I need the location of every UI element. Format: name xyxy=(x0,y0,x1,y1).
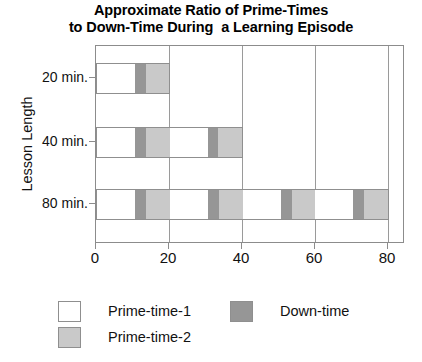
plot-inner xyxy=(96,46,403,242)
bar-segment-prime2 xyxy=(146,128,170,157)
legend-swatch-prime-time-1-icon xyxy=(58,301,81,322)
legend-swatch-down-time-icon xyxy=(230,301,253,322)
page-title: Approximate Ratio of Prime-Times to Down… xyxy=(0,2,422,36)
bar-segment-down xyxy=(135,190,146,219)
bar-segment-prime1 xyxy=(243,190,281,219)
legend-item-down-time: Down-time xyxy=(230,301,349,322)
y-tick-40 xyxy=(89,141,95,142)
bar-segment-down xyxy=(353,190,364,219)
bar-segment-prime1 xyxy=(97,190,135,219)
legend-label-prime-time-1: Prime-time-1 xyxy=(108,303,191,319)
x-tick-label-80: 80 xyxy=(367,249,407,266)
x-tick-label-40: 40 xyxy=(221,249,261,266)
x-tick-label-0: 0 xyxy=(75,249,115,266)
y-tick-20 xyxy=(89,77,95,78)
bar-segment-prime2 xyxy=(146,64,169,93)
legend-item-prime-time-2: Prime-time-2 xyxy=(58,327,230,348)
bar-segment-down xyxy=(135,64,146,93)
chart-title-line-1: Approximate Ratio of Prime-Times xyxy=(0,2,422,19)
y-tick-label-40: 40 min. xyxy=(0,133,88,149)
x-tick-label-60: 60 xyxy=(294,249,334,266)
bar-80-min xyxy=(96,189,389,220)
bar-segment-prime2 xyxy=(219,190,243,219)
bar-segment-prime2 xyxy=(292,190,316,219)
bar-segment-down xyxy=(208,190,219,219)
bar-segment-prime1 xyxy=(170,128,208,157)
legend: Prime-time-1 Down-time Prime-time-2 xyxy=(58,298,398,350)
bar-segment-down xyxy=(208,128,219,157)
y-tick-label-80: 80 min. xyxy=(0,195,88,211)
bar-segment-prime2 xyxy=(218,128,242,157)
bar-20-min xyxy=(96,63,170,94)
chart-title-line-2: to Down-Time During a Learning Episode xyxy=(0,19,422,36)
legend-label-down-time: Down-time xyxy=(280,303,349,319)
bar-segment-prime2 xyxy=(146,190,170,219)
bar-segment-down xyxy=(281,190,292,219)
legend-label-prime-time-2: Prime-time-2 xyxy=(108,329,191,345)
bar-segment-down xyxy=(135,128,146,157)
legend-item-prime-time-1: Prime-time-1 xyxy=(58,301,230,322)
legend-row: Prime-time-2 xyxy=(58,324,398,350)
bar-segment-prime1 xyxy=(97,128,135,157)
bar-segment-prime2 xyxy=(364,190,388,219)
bar-40-min xyxy=(96,127,243,158)
y-tick-label-20: 20 min. xyxy=(0,69,88,85)
x-tick-label-20: 20 xyxy=(148,249,188,266)
bar-segment-prime1 xyxy=(97,64,135,93)
bar-segment-prime1 xyxy=(315,190,353,219)
plot-area xyxy=(95,45,404,243)
bar-segment-prime1 xyxy=(170,190,208,219)
legend-row: Prime-time-1 Down-time xyxy=(58,298,398,324)
legend-swatch-prime-time-2-icon xyxy=(58,327,81,348)
y-tick-80 xyxy=(89,203,95,204)
